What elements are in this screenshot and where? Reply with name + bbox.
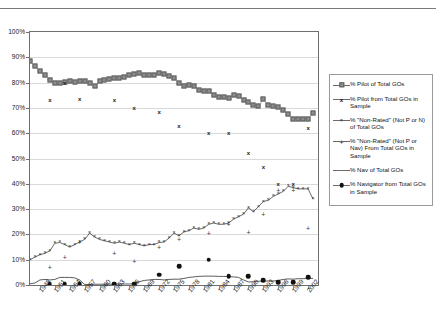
data-point-x-square: x bbox=[177, 123, 180, 129]
data-point-x: × bbox=[108, 239, 111, 244]
data-point-x: × bbox=[83, 237, 86, 242]
series-line bbox=[30, 61, 313, 119]
series-layer: xxxxxxxxxxxxxx××××××××××××××××××××××××××… bbox=[30, 32, 318, 285]
data-point-x: × bbox=[53, 241, 56, 246]
data-point-square bbox=[311, 110, 316, 115]
y-axis-tick-mark bbox=[26, 83, 29, 84]
y-axis-tick-mark bbox=[26, 159, 29, 160]
data-point-x: × bbox=[232, 217, 235, 222]
data-point-square bbox=[256, 104, 261, 109]
data-point-plus: + bbox=[276, 187, 280, 194]
y-axis-tick-mark bbox=[26, 209, 29, 210]
y-axis-tick-mark bbox=[26, 285, 29, 286]
legend-item-label: % Nav of Total GOs bbox=[350, 166, 403, 174]
data-point-x: × bbox=[128, 242, 131, 247]
data-point-plus: + bbox=[112, 250, 116, 257]
data-point-x: × bbox=[68, 244, 71, 249]
data-point-x: × bbox=[113, 241, 116, 246]
data-point-square bbox=[306, 117, 311, 122]
legend-item-label: % "Non-Rated" (Not P or Nav) From Total … bbox=[350, 137, 429, 160]
data-point-x: × bbox=[153, 242, 156, 247]
series-line bbox=[30, 186, 313, 259]
data-point-plus: + bbox=[78, 238, 82, 245]
legend-item[interactable]: % Nav of Total GOs bbox=[333, 166, 429, 175]
plus-marker-icon: + bbox=[333, 138, 350, 146]
legend-item-label: % Pilot from Total GOs in Sample bbox=[350, 95, 429, 111]
data-point-x: × bbox=[282, 189, 285, 194]
data-point-x-square: x bbox=[133, 105, 136, 111]
data-point-x: × bbox=[88, 231, 91, 236]
data-point-dot bbox=[206, 257, 211, 262]
data-point-plus: + bbox=[227, 221, 231, 228]
data-point-x: × bbox=[43, 251, 46, 256]
data-point-x: × bbox=[287, 184, 290, 189]
data-point-x: × bbox=[138, 242, 141, 247]
data-point-x: × bbox=[297, 186, 300, 191]
data-point-x: × bbox=[307, 186, 310, 191]
data-point-x: × bbox=[252, 209, 255, 214]
x-square-marker-icon: x bbox=[333, 96, 350, 104]
legend-item[interactable]: % Pilot of Total GOs bbox=[333, 80, 429, 89]
data-point-x: × bbox=[98, 237, 101, 242]
data-point-x: × bbox=[242, 212, 245, 217]
data-point-x-square: x bbox=[63, 80, 66, 86]
data-point-x: × bbox=[202, 225, 205, 230]
data-point-x: × bbox=[302, 186, 305, 191]
data-point-x-square: x bbox=[306, 125, 309, 131]
data-point-x: × bbox=[247, 205, 250, 210]
data-point-x: × bbox=[312, 196, 315, 201]
data-point-x: × bbox=[143, 243, 146, 248]
legend-item[interactable]: +% "Non-Rated" (Not P or Nav) From Total… bbox=[333, 137, 429, 160]
y-axis-tick-label: 60% bbox=[0, 130, 28, 137]
plot-area: xxxxxxxxxxxxxx××××××××××××××××××××××××××… bbox=[29, 31, 319, 286]
data-point-plus: + bbox=[291, 187, 295, 194]
data-point-x-square: x bbox=[247, 150, 250, 156]
data-point-plus: + bbox=[306, 225, 310, 232]
y-axis-tick-label: 10% bbox=[0, 256, 28, 263]
data-point-x: × bbox=[267, 198, 270, 203]
data-point-x: × bbox=[257, 204, 260, 209]
data-point-dot bbox=[157, 273, 162, 278]
data-point-x: × bbox=[123, 241, 126, 246]
data-point-x: × bbox=[272, 194, 275, 199]
data-point-x: × bbox=[58, 240, 61, 245]
square-marker-icon bbox=[333, 81, 350, 89]
data-point-x: × bbox=[172, 231, 175, 236]
y-axis-tick-label: 70% bbox=[0, 105, 28, 112]
legend-item[interactable]: % Navigator from Total GOs in Sample bbox=[333, 180, 429, 196]
data-point-x: × bbox=[133, 241, 136, 246]
y-axis-tick-mark bbox=[26, 260, 29, 261]
data-point-x-square: x bbox=[207, 130, 210, 136]
y-axis-tick-label: 20% bbox=[0, 231, 28, 238]
y-axis-tick-label: 30% bbox=[0, 206, 28, 213]
data-point-dot bbox=[177, 264, 182, 269]
legend-item[interactable]: x% Pilot from Total GOs in Sample bbox=[333, 95, 429, 111]
data-point-x: × bbox=[33, 255, 36, 260]
chart-page: xxxxxxxxxxxxxx××××××××××××××××××××××××××… bbox=[0, 0, 436, 310]
data-point-x: × bbox=[222, 222, 225, 227]
y-axis-tick-mark bbox=[26, 184, 29, 185]
data-point-x: × bbox=[182, 229, 185, 234]
legend-item-label: % Pilot of Total GOs bbox=[350, 80, 404, 88]
legend-item[interactable]: ×% "Non-Rated" (Not P or N) of Total GOs bbox=[333, 116, 429, 132]
y-axis-tick-label: 40% bbox=[0, 181, 28, 188]
data-point-x-square: x bbox=[48, 97, 51, 103]
data-point-x: × bbox=[103, 238, 106, 243]
data-point-square bbox=[261, 97, 266, 102]
data-point-plus: + bbox=[261, 211, 265, 218]
data-point-x-square: x bbox=[227, 130, 230, 136]
cropped-text-above-figure bbox=[0, 0, 436, 8]
data-point-x: × bbox=[38, 252, 41, 257]
data-point-x: × bbox=[212, 220, 215, 225]
data-point-x: × bbox=[163, 239, 166, 244]
y-axis-tick-label: 90% bbox=[0, 54, 28, 61]
data-point-x: × bbox=[197, 227, 200, 232]
data-point-plus: + bbox=[246, 228, 250, 235]
data-point-x: × bbox=[217, 222, 220, 227]
y-axis-tick-mark bbox=[26, 133, 29, 134]
data-point-x: × bbox=[30, 257, 32, 262]
data-point-x: × bbox=[63, 242, 66, 247]
data-point-dot bbox=[306, 275, 311, 280]
data-point-plus: + bbox=[157, 244, 161, 251]
data-point-x: × bbox=[192, 225, 195, 230]
